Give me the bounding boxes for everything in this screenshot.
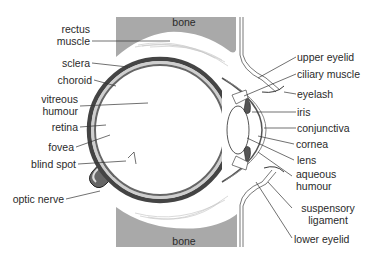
label-blind-spot: blind spot: [4, 158, 76, 170]
label-conjunctiva: conjunctiva: [297, 122, 350, 134]
label-aqueous-line1: aqueous: [296, 168, 336, 180]
label-vitreous-line1: vitreous: [10, 93, 78, 105]
eye-diagram: bone bone rectus muscle sclera choroid v…: [0, 0, 379, 260]
eyelash-lower: [264, 167, 284, 172]
label-rectus-muscle-line2: muscle: [20, 35, 90, 47]
bone-label-bottom: bone: [166, 235, 202, 247]
label-iris: iris: [297, 106, 310, 118]
label-rectus-muscle-line1: rectus: [20, 23, 90, 35]
label-upper-eyelid: upper eyelid: [297, 51, 354, 63]
label-suspensory-ligament: suspensory ligament: [292, 202, 364, 226]
label-choroid: choroid: [20, 74, 92, 86]
label-aqueous-humour: aqueous humour: [296, 168, 336, 192]
label-vitreous-line2: humour: [10, 105, 78, 117]
bone-label-top: bone: [166, 16, 202, 28]
retina-layer: [95, 65, 225, 195]
label-lower-eyelid: lower eyelid: [294, 233, 349, 245]
label-rectus-muscle: rectus muscle: [20, 23, 90, 47]
label-eyelash: eyelash: [297, 88, 333, 100]
label-suspensory-line2: ligament: [292, 214, 364, 226]
label-fovea: fovea: [10, 141, 74, 153]
label-aqueous-line2: humour: [296, 180, 336, 192]
label-optic-nerve: optic nerve: [0, 193, 64, 205]
label-lens: lens: [297, 154, 316, 166]
label-sclera: sclera: [20, 57, 90, 69]
label-retina: retina: [10, 121, 78, 133]
label-vitreous-humour: vitreous humour: [10, 93, 78, 117]
label-ciliary-muscle: ciliary muscle: [297, 68, 360, 80]
label-cornea: cornea: [296, 138, 328, 150]
label-suspensory-line1: suspensory: [292, 202, 364, 214]
